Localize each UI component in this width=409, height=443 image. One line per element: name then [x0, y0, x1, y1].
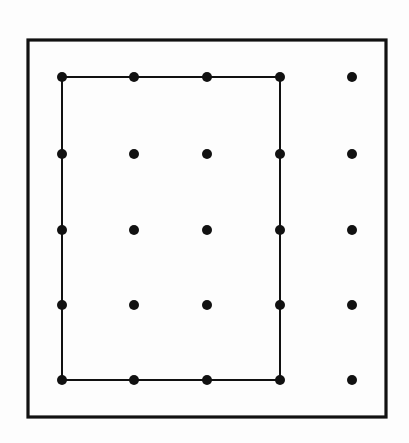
grid-dot: [57, 375, 67, 385]
grid-dot: [57, 300, 67, 310]
grid-dot: [347, 72, 357, 82]
grid-dot: [202, 375, 212, 385]
grid-dot: [57, 72, 67, 82]
grid-dot: [275, 72, 285, 82]
grid-dot: [347, 225, 357, 235]
grid-dot: [202, 225, 212, 235]
grid-dot: [275, 149, 285, 159]
grid-dot: [347, 375, 357, 385]
figure-root: [0, 0, 409, 443]
grid-dot: [129, 375, 139, 385]
grid-dot: [129, 225, 139, 235]
grid-dot: [129, 300, 139, 310]
grid-dot: [57, 225, 67, 235]
grid-dot: [275, 225, 285, 235]
grid-dot: [202, 300, 212, 310]
grid-dot: [202, 72, 212, 82]
grid-dot: [347, 149, 357, 159]
grid-dot: [347, 300, 357, 310]
grid-dot: [275, 300, 285, 310]
grid-dot: [129, 149, 139, 159]
grid-dot: [129, 72, 139, 82]
grid-dot: [275, 375, 285, 385]
figure-canvas: [0, 0, 409, 443]
grid-dot: [202, 149, 212, 159]
grid-dot: [57, 149, 67, 159]
